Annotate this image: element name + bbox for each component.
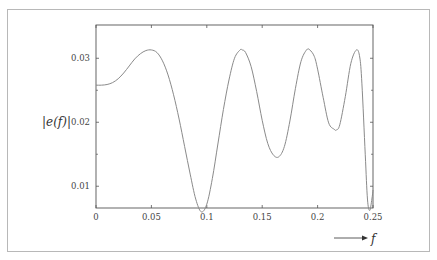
x-tick-label: 0.2 — [311, 212, 325, 222]
plot-border — [96, 25, 373, 208]
x-axis-arrow — [334, 236, 368, 241]
y-tick-label: 0.02 — [71, 117, 90, 127]
plot-axes — [96, 25, 373, 208]
x-tick-label: 0.1 — [200, 212, 214, 222]
x-tick-label: 0.05 — [142, 212, 161, 222]
x-tick-label: 0.15 — [253, 212, 272, 222]
y-tick-label: 0.03 — [71, 53, 90, 63]
line-chart: 00.050.10.150.20.250.010.020.03 |e(f)| f — [0, 0, 437, 260]
x-tick-label: 0 — [93, 212, 98, 222]
y-tick-label: 0.01 — [71, 181, 90, 191]
y-axis-label: |e(f)| — [42, 115, 71, 129]
x-tick-label: 0.25 — [364, 212, 383, 222]
error-curve — [96, 49, 373, 212]
x-axis-label: f — [370, 232, 378, 246]
axis-ticks: 00.050.10.150.20.250.010.020.03 — [71, 25, 382, 222]
